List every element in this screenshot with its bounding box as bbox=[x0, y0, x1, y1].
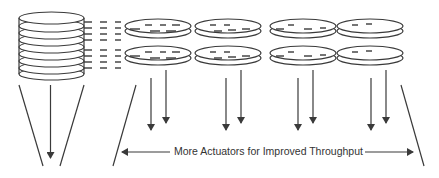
platter bbox=[125, 19, 191, 38]
left-funnel bbox=[19, 85, 84, 166]
platter bbox=[270, 19, 336, 38]
dashed-connectors bbox=[84, 22, 121, 68]
platter bbox=[195, 46, 261, 65]
platter-row-1 bbox=[125, 19, 403, 38]
platter bbox=[337, 19, 403, 38]
platter bbox=[125, 46, 191, 65]
actuator-arrows bbox=[151, 70, 386, 130]
platter-row-2 bbox=[125, 46, 403, 65]
platter bbox=[337, 46, 403, 65]
diagram-caption: More Actuators for Improved Throughput bbox=[174, 145, 363, 157]
disk-stack bbox=[19, 12, 84, 80]
platter bbox=[195, 19, 261, 38]
platter bbox=[270, 46, 336, 65]
